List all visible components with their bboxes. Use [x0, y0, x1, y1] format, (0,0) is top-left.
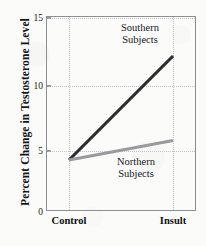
x-tick-label-control: Control: [52, 215, 87, 226]
series-label-southern-line1: Southern: [121, 22, 159, 34]
y-tick-label-5: 5: [38, 146, 43, 156]
x-tick-label-insult: Insult: [160, 215, 186, 226]
y-tick-label-10: 10: [34, 81, 44, 91]
series-label-northern-line1: Northern: [117, 156, 155, 168]
chart-figure: Percent Change in Testosterone Level 15 …: [0, 0, 206, 246]
series-label-northern: Northern Subjects: [117, 156, 155, 180]
series-label-southern: Southern Subjects: [121, 22, 159, 46]
y-tick-label-0: 0: [38, 207, 43, 217]
series-label-northern-line2: Subjects: [117, 168, 155, 180]
y-tick-label-15: 15: [34, 13, 44, 23]
series-label-southern-line2: Subjects: [121, 34, 159, 46]
y-axis-title: Percent Change in Testosterone Level: [19, 14, 31, 210]
plot-area: 15 10 5 0 Control Insult Southern Subjec…: [46, 16, 196, 211]
series-layer: [47, 17, 197, 212]
